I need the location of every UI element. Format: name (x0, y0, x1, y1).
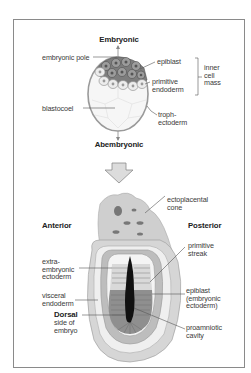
abembryonic-title: Abembryonic (90, 141, 148, 149)
label-proamniotic-cavity: proamniotic cavity (186, 324, 222, 339)
label-blastocoel: blastocoel (42, 105, 73, 113)
label-extra-embryonic-ectoderm: extra- embryonic ectoderm (42, 258, 74, 281)
label-inner-cell-mass: inner cell mass (204, 64, 221, 87)
embryonic-title: Embryonic (96, 36, 142, 44)
embryo-diagram (0, 0, 251, 373)
label-side-of-embryo: side of embryo (54, 319, 77, 334)
label-trophectoderm: troph- ectoderm (158, 111, 187, 126)
label-epiblast-embryonic-ectoderm: epiblast (embryonic ectoderm) (186, 287, 221, 310)
label-primitive-streak: primitive streak (188, 242, 214, 257)
label-ectoplacental-cone: ectoplacental cone (167, 196, 208, 211)
label-primitive-endoderm: primitive endoderm (152, 78, 184, 93)
blastocyst (83, 45, 202, 141)
label-epiblast: epiblast (157, 58, 181, 66)
label-embryonic-pole: embryonic pole (42, 54, 89, 62)
egg-cylinder (75, 193, 185, 362)
label-visceral-endoderm: visceral endoderm (42, 292, 74, 307)
down-arrow-icon (105, 163, 133, 183)
posterior-title: Posterior (188, 222, 221, 230)
anterior-title: Anterior (42, 222, 72, 230)
